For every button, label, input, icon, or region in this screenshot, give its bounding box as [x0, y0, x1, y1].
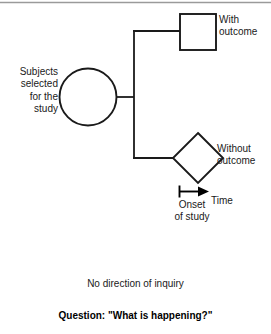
label-without-outcome: Without outcome	[217, 143, 271, 168]
label-subjects-selected: Subjects selected for the study	[2, 66, 58, 116]
subjects-circle	[60, 69, 117, 126]
without-outcome-diamond	[173, 133, 223, 183]
time-arrow-head	[198, 187, 209, 197]
with-outcome-square	[180, 14, 216, 50]
caption-no-direction-of-inquiry: No direction of inquiry	[0, 278, 271, 290]
cross-sectional-study-diagram: Subjects selected for the study With out…	[0, 0, 271, 334]
label-with-outcome: With outcome	[219, 14, 271, 39]
caption-question: Question: "What is happening?"	[0, 310, 271, 322]
label-time-axis: Time	[211, 195, 251, 207]
